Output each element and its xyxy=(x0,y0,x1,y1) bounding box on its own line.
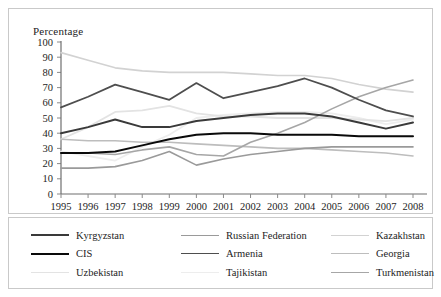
y-tick-label: 90 xyxy=(43,52,54,63)
legend-item-georgia[interactable]: Georgia xyxy=(331,248,441,259)
legend-swatch-line-icon xyxy=(181,272,219,273)
y-tick-label: 100 xyxy=(37,37,53,48)
x-tick-label: 1998 xyxy=(132,201,153,212)
y-tick-label: 0 xyxy=(48,189,53,200)
x-tick-label: 2003 xyxy=(267,201,288,212)
legend-label: Russian Federation xyxy=(226,230,307,241)
legend-swatch-line-icon xyxy=(31,234,69,236)
chart-screenshot: Percentage 10090807060504030201001995199… xyxy=(0,0,441,297)
y-tick-label: 10 xyxy=(43,173,54,184)
legend-label: Tajikistan xyxy=(226,267,267,278)
x-tick-label: 1995 xyxy=(51,201,72,212)
x-tick-label: 2000 xyxy=(186,201,207,212)
x-tick-label: 2002 xyxy=(240,201,261,212)
legend-swatch-line-icon xyxy=(31,253,69,255)
x-tick-label: 2001 xyxy=(213,201,234,212)
y-tick-label: 80 xyxy=(43,67,54,78)
legend-swatch-line-icon xyxy=(181,253,219,254)
legend-item-turkmenistan[interactable]: Turkmenistan xyxy=(331,267,441,278)
legend-label: Turkmenistan xyxy=(376,267,434,278)
x-tick-label: 2006 xyxy=(348,201,369,212)
x-tick-label: 1996 xyxy=(78,201,99,212)
legend-swatch-line-icon xyxy=(331,272,369,273)
x-tick-label: 1997 xyxy=(105,201,126,212)
legend: KyrgyzstanRussian FederationKazakhstanCI… xyxy=(9,218,434,290)
series-line-kyrgyzstan xyxy=(61,113,413,133)
y-tick-label: 20 xyxy=(43,158,54,169)
x-tick-label: 2007 xyxy=(375,201,396,212)
plot-area: 1009080706050403020100199519961997199819… xyxy=(9,9,434,215)
line-chart: 1009080706050403020100199519961997199819… xyxy=(9,9,434,215)
legend-item-uzbekistan[interactable]: Uzbekistan xyxy=(31,267,181,278)
legend-swatch-line-icon xyxy=(181,235,219,236)
legend-label: Armenia xyxy=(226,248,263,259)
x-tick-label: 2004 xyxy=(294,201,316,212)
y-tick-label: 70 xyxy=(43,82,54,93)
legend-item-armenia[interactable]: Armenia xyxy=(181,248,331,259)
y-tick-label: 30 xyxy=(43,143,54,154)
y-tick-label: 40 xyxy=(43,128,54,139)
chart-panel: Percentage 10090807060504030201001995199… xyxy=(8,8,433,214)
legend-item-russian-federation[interactable]: Russian Federation xyxy=(181,230,331,241)
y-tick-label: 60 xyxy=(43,97,54,108)
legend-item-tajikistan[interactable]: Tajikistan xyxy=(181,267,331,278)
legend-label: Uzbekistan xyxy=(76,267,123,278)
legend-label: CIS xyxy=(76,248,92,259)
legend-item-cis[interactable]: CIS xyxy=(31,248,181,259)
series-line-kazakhstan xyxy=(61,53,413,93)
legend-label: Kyrgyzstan xyxy=(76,230,124,241)
y-tick-label: 50 xyxy=(43,113,54,124)
legend-item-kazakhstan[interactable]: Kazakhstan xyxy=(331,230,441,241)
legend-item-kyrgyzstan[interactable]: Kyrgyzstan xyxy=(31,230,181,241)
legend-swatch-line-icon xyxy=(331,253,369,254)
x-tick-label: 1999 xyxy=(159,201,180,212)
legend-swatch-line-icon xyxy=(31,272,69,273)
legend-swatch-line-icon xyxy=(331,235,369,236)
series-line-russian-federation xyxy=(61,147,413,168)
legend-label: Kazakhstan xyxy=(376,230,425,241)
x-tick-label: 2008 xyxy=(403,201,424,212)
legend-panel: KyrgyzstanRussian FederationKazakhstanCI… xyxy=(8,217,433,289)
legend-label: Georgia xyxy=(376,248,410,259)
x-tick-label: 2005 xyxy=(321,201,342,212)
